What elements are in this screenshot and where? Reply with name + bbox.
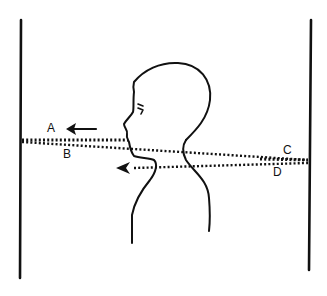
back-outline	[183, 140, 210, 231]
head-outline	[124, 63, 210, 243]
person-figure	[124, 63, 210, 243]
label-b: B	[63, 147, 71, 161]
dotted-path-d	[134, 163, 308, 168]
label-c: C	[283, 143, 292, 157]
eye-icon	[138, 104, 143, 114]
arrow-d-left-icon	[116, 162, 130, 174]
diagram-canvas: A B C D	[0, 0, 327, 296]
arrow-a-left-icon	[66, 123, 96, 135]
left-wall	[20, 20, 21, 278]
label-d: D	[273, 165, 282, 179]
dotted-path-c	[260, 159, 308, 160]
right-wall	[309, 20, 311, 270]
label-a: A	[47, 121, 55, 135]
